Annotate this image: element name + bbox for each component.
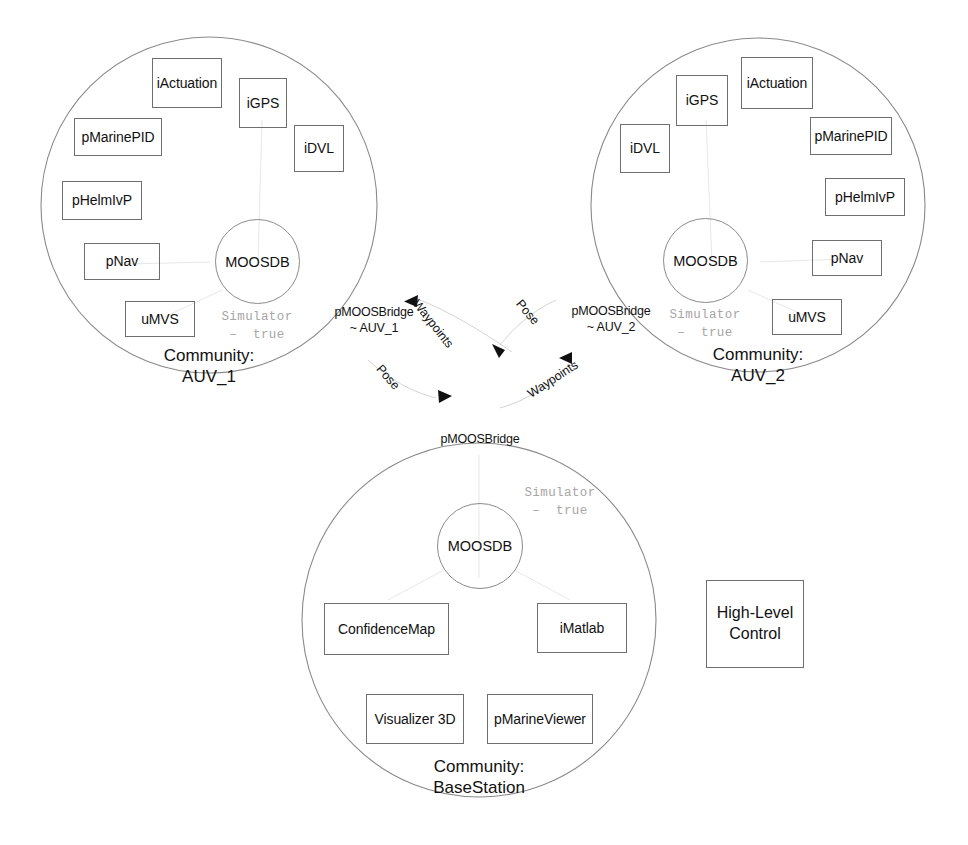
- module-label: pHelmIvP: [835, 189, 895, 205]
- module-label: uMVS: [788, 309, 826, 325]
- diagram-canvas: iActuation iGPS iDVL pMarinePID pHelmIvP…: [0, 0, 968, 845]
- module-label: Visualizer 3D: [375, 711, 456, 727]
- module-box-pnav-auv1[interactable]: pNav: [84, 243, 160, 280]
- module-label: pNav: [106, 253, 138, 269]
- module-label: pNav: [831, 250, 863, 266]
- bridge-label-auv1[interactable]: pMOOSBridge ~ AUV_1: [322, 304, 426, 337]
- module-label: iDVL: [304, 140, 334, 156]
- community-label-basestation: Community: BaseStation: [394, 756, 564, 799]
- module-label: iDVL: [630, 140, 660, 156]
- module-box-confidencemap-basestation[interactable]: ConfidenceMap: [324, 603, 449, 655]
- module-label: iGPS: [686, 92, 718, 108]
- arrowhead-pose-to-auv2: [438, 390, 452, 403]
- module-box-pmarinepid-auv2[interactable]: pMarinePID: [810, 117, 892, 155]
- module-box-imatlab-basestation[interactable]: iMatlab: [537, 603, 627, 653]
- module-label: ConfidenceMap: [338, 621, 435, 637]
- module-box-umvs-auv2[interactable]: uMVS: [772, 299, 842, 335]
- module-label: iActuation: [747, 75, 807, 91]
- high-level-control-box[interactable]: High-Level Control: [706, 580, 804, 668]
- module-label: pMarinePID: [82, 129, 155, 145]
- moosdb-label: MOOSDB: [448, 538, 512, 554]
- module-box-iactuation-auv2[interactable]: iActuation: [741, 57, 813, 109]
- module-box-idvl-auv2[interactable]: iDVL: [620, 124, 670, 173]
- bridge-label-auv2[interactable]: pMOOSBridge ~ AUV_2: [559, 303, 663, 336]
- module-box-pnav-auv2[interactable]: pNav: [812, 240, 882, 276]
- module-label: pMarinePID: [815, 128, 888, 144]
- module-label: iMatlab: [560, 620, 604, 636]
- module-box-igps-auv2[interactable]: iGPS: [676, 75, 728, 126]
- module-box-idvl-auv1[interactable]: iDVL: [294, 125, 344, 172]
- module-box-pmarinepid-auv1[interactable]: pMarinePID: [74, 118, 162, 156]
- module-box-phelmivp-auv1[interactable]: pHelmIvP: [62, 181, 142, 220]
- module-label: pMarineViewer: [494, 711, 586, 727]
- simulator-flag-basestation: Simulator – true: [505, 484, 615, 520]
- moosdb-circle-auv1[interactable]: MOOSDB: [215, 219, 300, 304]
- bridge-label-basestation[interactable]: pMOOSBridge: [428, 432, 532, 446]
- simulator-flag-auv2: Simulator – true: [650, 306, 760, 342]
- module-label: iGPS: [247, 95, 279, 111]
- community-label-auv2: Community: AUV_2: [673, 344, 843, 387]
- simulator-flag-auv1: Simulator – true: [202, 308, 312, 344]
- module-label: pHelmIvP: [72, 192, 132, 208]
- community-label-auv1: Community: AUV_1: [124, 345, 294, 388]
- module-box-igps-auv1[interactable]: iGPS: [239, 78, 287, 128]
- moosdb-label: MOOSDB: [673, 253, 737, 269]
- module-box-umvs-auv1[interactable]: uMVS: [125, 301, 195, 337]
- module-box-pmarineviewer-basestation[interactable]: pMarineViewer: [487, 694, 593, 744]
- module-box-visualizer3d-basestation[interactable]: Visualizer 3D: [366, 694, 464, 744]
- moosdb-circle-auv2[interactable]: MOOSDB: [663, 218, 748, 303]
- moosdb-label: MOOSDB: [225, 254, 289, 270]
- module-box-phelmivp-auv2[interactable]: pHelmIvP: [825, 178, 905, 216]
- module-label: iActuation: [157, 75, 217, 91]
- module-label: uMVS: [141, 311, 179, 327]
- module-box-iactuation-auv1[interactable]: iActuation: [152, 58, 222, 108]
